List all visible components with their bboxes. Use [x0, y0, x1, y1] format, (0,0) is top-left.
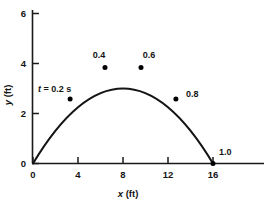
y-tick-label-3: 6: [21, 8, 26, 19]
x-tick-label-1: 4: [75, 169, 81, 180]
marker-label-t-0-8: 0.8: [186, 89, 199, 99]
y-tick-label-0: 0: [21, 158, 26, 169]
time-annotation-rest: = 0.2 s: [41, 84, 71, 94]
x-tick-label-2: 8: [120, 169, 125, 180]
svg-text:y (ft): y (ft): [2, 85, 13, 107]
svg-text:x (ft): x (ft): [117, 188, 139, 199]
marker-t-0-8: [173, 97, 178, 102]
y-axis-title-unit: (ft): [2, 85, 13, 100]
marker-t-0-4: [103, 65, 108, 70]
x-tick-label-0: 0: [30, 169, 35, 180]
marker-t-0-6: [139, 65, 144, 70]
marker-t-0-2: [68, 97, 73, 102]
y-axis-title: y (ft): [2, 85, 13, 107]
marker-label-t-0-6: 0.6: [143, 50, 156, 60]
y-tick-label-1: 2: [21, 108, 26, 119]
x-tick-label-4: 16: [208, 169, 219, 180]
marker-label-t-1-0: 1.0: [219, 147, 232, 157]
marker-label-t-0-2: t = 0.2 s: [38, 84, 71, 94]
y-tick-label-2: 4: [21, 58, 27, 69]
x-tick-label-3: 12: [163, 169, 174, 180]
marker-t-1-0: [211, 161, 216, 166]
x-axis-title-unit: (ft): [123, 188, 138, 199]
figure-projectile-trajectory: 0 4 8 12 16 0 2 4 6 x (ft) y (ft): [0, 0, 272, 203]
chart-svg: 0 4 8 12 16 0 2 4 6 x (ft) y (ft): [0, 0, 272, 203]
marker-label-t-0-4: 0.4: [93, 50, 106, 60]
x-axis-title: x (ft): [117, 188, 139, 199]
chart-background: [0, 0, 272, 203]
